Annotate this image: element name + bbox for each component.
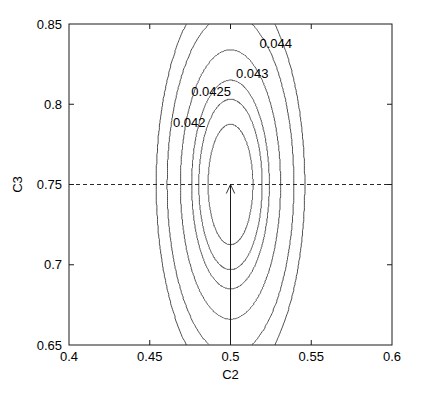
y-tick-label: 0.7 bbox=[44, 257, 62, 272]
contour-level-label: 0.0425 bbox=[191, 84, 231, 99]
y-axis-title: C3 bbox=[10, 176, 25, 193]
contour-level-label: 0.044 bbox=[259, 36, 292, 51]
y-tick-label: 0.65 bbox=[37, 338, 62, 353]
contour-level-label: 0.043 bbox=[236, 66, 269, 81]
y-tick-label: 0.85 bbox=[37, 17, 62, 32]
x-tick-label: 0.6 bbox=[383, 349, 401, 364]
x-tick-label: 0.4 bbox=[60, 349, 78, 364]
contour-level-label: 0.042 bbox=[173, 115, 206, 130]
y-tick-label: 0.75 bbox=[37, 177, 62, 192]
x-axis-title: C2 bbox=[222, 367, 239, 382]
figure-background bbox=[0, 0, 421, 395]
contour-plot-figure: 0.40.450.50.550.60.650.70.750.80.85 0.04… bbox=[0, 0, 421, 395]
x-tick-label: 0.55 bbox=[299, 349, 324, 364]
x-tick-label: 0.5 bbox=[221, 349, 239, 364]
x-tick-label: 0.45 bbox=[137, 349, 162, 364]
y-tick-label: 0.8 bbox=[44, 97, 62, 112]
